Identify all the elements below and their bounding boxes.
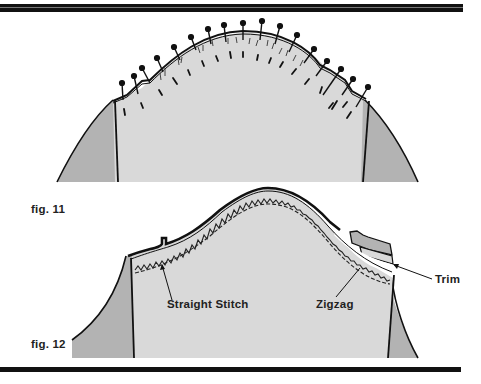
fig12-bodice xyxy=(72,256,133,358)
fig-11-caption: fig. 11 xyxy=(31,203,65,215)
fig12-sleeve xyxy=(132,189,393,358)
fig-12-caption: fig. 12 xyxy=(31,338,66,350)
straight-stitch-label: Straight Stitch xyxy=(167,298,249,310)
figure-12-illustration xyxy=(0,0,481,384)
zigzag-label: Zigzag xyxy=(316,298,354,310)
bottom-rule xyxy=(0,367,461,372)
trim-label: Trim xyxy=(435,273,460,285)
